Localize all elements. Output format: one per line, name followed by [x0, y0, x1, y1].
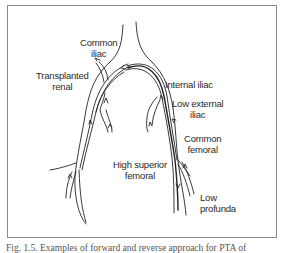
label-line: Low external — [172, 98, 223, 109]
label-line: Low — [200, 192, 236, 203]
label-high-superior-femoral: High superior femoral — [113, 159, 167, 181]
label-line: Internal iliac — [165, 79, 213, 90]
figure-caption: Fig. 1.5. Examples of forward and revers… — [6, 243, 246, 253]
label-line: High superior — [113, 159, 167, 170]
label-low-external-iliac: Low external iliac — [172, 98, 223, 120]
label-line: femoral — [184, 144, 221, 155]
aorta-right-wall — [136, 22, 152, 62]
label-transplanted-renal: Transplanted renal — [36, 70, 89, 92]
label-common-iliac: Common iliac — [80, 37, 117, 59]
label-line: femoral — [113, 170, 167, 181]
label-line: renal — [36, 81, 89, 92]
label-line: Common — [80, 37, 117, 48]
label-line: Transplanted — [36, 70, 89, 81]
label-line: profunda — [200, 203, 236, 214]
label-line: iliac — [172, 109, 223, 120]
label-internal-iliac: Internal iliac — [165, 79, 213, 90]
label-line: iliac — [80, 48, 117, 59]
label-low-profunda: Low profunda — [200, 192, 236, 214]
label-common-femoral: Common femoral — [184, 133, 221, 155]
label-line: Common — [184, 133, 221, 144]
